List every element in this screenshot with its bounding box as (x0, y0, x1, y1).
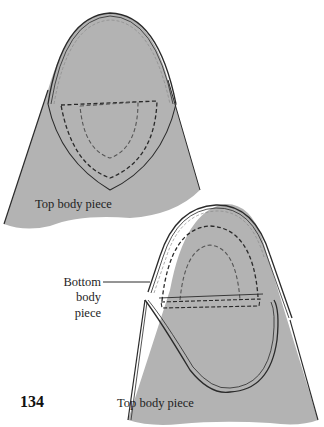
label-top-body-piece-1: Top body piece (35, 197, 112, 211)
label-top-body-piece-2: Top body piece (117, 396, 194, 410)
sewing-pattern-illustration (0, 0, 324, 427)
figure-2-assembled-pieces (103, 204, 318, 425)
book-page: Top body piece Bottom body piece Top bod… (0, 0, 324, 427)
label-bottom-line3: piece (53, 306, 101, 320)
page-number: 134 (20, 393, 44, 411)
label-bottom-line1: Bottom (53, 275, 101, 289)
label-bottom-line2: body (53, 290, 101, 304)
